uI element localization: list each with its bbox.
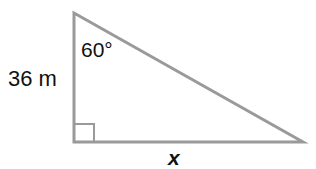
triangle-diagram: 36 m 60° x [0,0,316,169]
bottom-side-label: x [168,146,180,169]
angle-label: 60° [81,38,113,62]
right-angle-marker [74,124,94,142]
right-triangle [74,13,303,142]
left-side-label: 36 m [8,66,57,92]
